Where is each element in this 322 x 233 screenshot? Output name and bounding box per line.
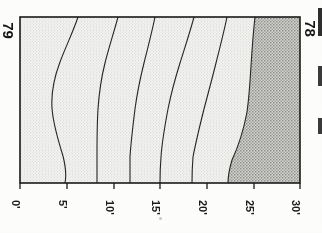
contour-figure: 79 78 0' 5' 10' 15' 20' 25' 30' [0, 0, 322, 233]
plot-fill-group [20, 17, 300, 183]
axis-ticks-group [20, 183, 300, 189]
tick-label-15: 15' [150, 200, 162, 215]
tick-label-30: 30' [290, 200, 302, 215]
page-edge-marks [318, 8, 322, 134]
tick-label-0: 0' [10, 200, 22, 209]
panel-label-right: 78 [302, 16, 319, 42]
scan-dust-speck [159, 217, 162, 220]
tick-label-10: 10' [104, 200, 116, 215]
tick-label-5: 5' [57, 200, 69, 209]
panel-label-left: 79 [0, 18, 17, 44]
contour-plot [0, 0, 322, 233]
tick-label-20: 20' [197, 200, 209, 215]
tick-label-25: 25' [244, 200, 256, 215]
